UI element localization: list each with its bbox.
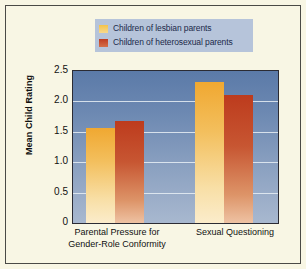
bar-lesbian-parental-pressure [86,128,115,223]
legend-item-heterosexual-parents: Children of heterosexual parents [99,36,249,49]
legend-swatch-icon-heterosexual-parents [99,39,108,47]
y-tick-1-5: 1.5 [42,126,68,136]
bar-chart-figure: Children of lesbian parents Children of … [0,0,306,269]
y-tick-1-0: 1.0 [42,156,68,166]
x-tick-parental-pressure-line2: Gender-Role Conformity [57,239,177,251]
legend-label-lesbian-parents: Children of lesbian parents [113,24,211,33]
bar-lesbian-sexual-questioning [195,82,224,223]
legend-label-heterosexual-parents: Children of heterosexual parents [113,38,233,47]
x-tick-sexual-questioning: Sexual Questioning [180,227,290,239]
y-tick-0-5: 0.5 [42,187,68,197]
y-tick-2-0: 2.0 [42,95,68,105]
bar-heterosexual-parental-pressure [115,121,144,223]
x-tick-parental-pressure: Parental Pressure for Gender-Role Confor… [57,227,177,250]
legend-swatch-icon-lesbian-parents [99,25,108,33]
x-tick-sexual-questioning-line1: Sexual Questioning [180,227,290,239]
y-tick-2-5: 2.5 [42,65,68,75]
y-axis-title: Mean Child Rating [24,55,34,175]
legend-item-lesbian-parents: Children of lesbian parents [99,22,249,35]
x-tick-parental-pressure-line1: Parental Pressure for [57,227,177,239]
plot-area [72,70,279,224]
y-tick-0: 0 [42,217,68,227]
bar-heterosexual-sexual-questioning [224,95,253,223]
chart-legend: Children of lesbian parents Children of … [95,19,253,52]
